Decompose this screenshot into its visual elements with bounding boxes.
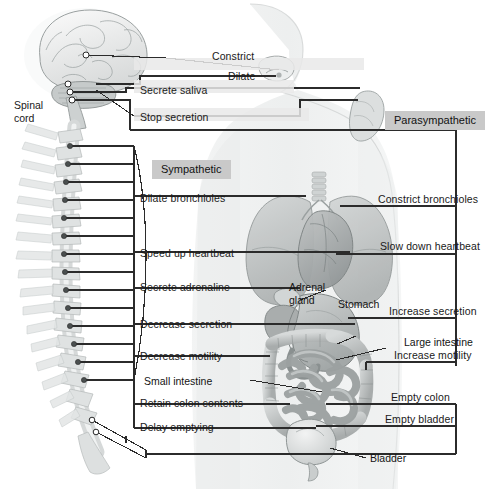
symp-effect-heart: Speed up heartbeat	[140, 247, 234, 259]
organ-label-large-intestine: Large intestine	[404, 336, 473, 349]
sympathetic-header: Sympathetic	[152, 160, 231, 179]
symp-effect-adrenal: Secrete adrenaline	[140, 281, 230, 293]
para-effect-eye: Constrict	[212, 50, 254, 62]
para-effect-bladder: Empty bladder	[385, 413, 454, 425]
organ-label-adrenal-line1: Adrenal	[289, 281, 325, 294]
symp-effect-stomach: Decrease secretion	[140, 318, 232, 330]
organ-label-adrenal-line2: gland	[289, 294, 315, 307]
symp-effect-bronchi: Dilate bronchioles	[140, 192, 225, 204]
symp-effect-intestine: Decrease motility	[140, 350, 222, 362]
para-effect-bronchi: Constrict bronchioles	[378, 193, 478, 205]
spinal-cord-label-line2: cord	[14, 112, 34, 124]
symp-effect-colon: Retain colon contents	[140, 397, 243, 409]
organ-label-small-intestine: Small intestine	[144, 375, 212, 388]
para-effect-stomach: Increase secretion	[389, 305, 477, 317]
symp-effect-salivary: Stop secretion	[140, 111, 209, 123]
cranial-nuclei	[65, 52, 99, 435]
para-effect-intestine: Increase motility	[394, 349, 472, 361]
sympathetic-ganglia	[61, 143, 86, 382]
symp-effect-bladder: Delay emptying	[140, 421, 214, 433]
spinal-cord-label-line1: Spinal	[14, 99, 43, 111]
para-effect-colon: Empty colon	[391, 391, 450, 403]
parasympathetic-header: Parasympathetic	[385, 111, 485, 130]
para-effect-heart: Slow down heartbeat	[380, 240, 480, 252]
symp-effect-eye: Dilate	[228, 70, 255, 82]
organ-label-stomach: Stomach	[338, 298, 379, 311]
organ-label-bladder: Bladder	[370, 452, 406, 465]
diagram-canvas: Spinal cord Sympathetic Parasympathetic …	[0, 0, 501, 489]
para-effect-salivary: Secrete saliva	[140, 84, 207, 96]
